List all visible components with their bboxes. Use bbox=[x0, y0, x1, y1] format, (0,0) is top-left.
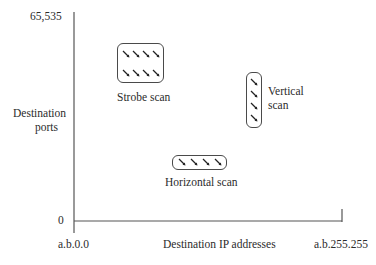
vertical-scan-region bbox=[246, 72, 262, 128]
x-axis-label: Destination IP addresses bbox=[163, 238, 276, 251]
y-axis-label-line1: Destination bbox=[13, 107, 66, 120]
strobe-scan-label: Strobe scan bbox=[117, 91, 170, 104]
horizontal-scan-label: Horizontal scan bbox=[165, 176, 238, 189]
y-axis-max-tick: 65,535 bbox=[30, 10, 62, 23]
y-axis-min-tick: 0 bbox=[58, 214, 64, 227]
strobe-scan-region bbox=[117, 43, 164, 83]
x-axis-max-tick: a.b.255.255 bbox=[314, 238, 368, 251]
horizontal-scan-region bbox=[172, 155, 227, 170]
y-axis-label-line2: ports bbox=[35, 121, 58, 134]
vertical-scan-label-line1: Vertical bbox=[268, 85, 304, 98]
x-axis-min-tick: a.b.0.0 bbox=[58, 238, 89, 251]
vertical-scan-label-line2: scan bbox=[268, 99, 288, 112]
